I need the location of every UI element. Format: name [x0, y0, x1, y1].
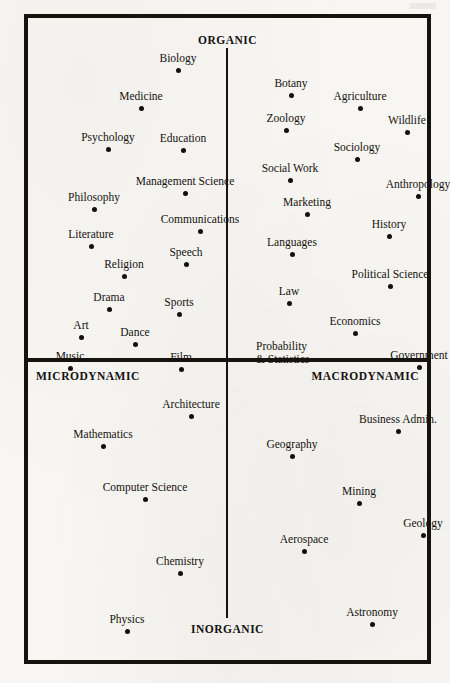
pole-label-right: MACRODYNAMIC: [311, 370, 419, 382]
data-point-label: Mathematics: [73, 428, 132, 440]
data-point-label: Religion: [104, 258, 144, 270]
data-point-label: Languages: [267, 236, 317, 248]
data-point-label: Marketing: [283, 196, 331, 208]
data-point-marker: [289, 93, 294, 98]
data-point-label: Philosophy: [68, 191, 120, 203]
data-point-marker: [353, 331, 358, 336]
data-point-label: Sociology: [334, 141, 381, 153]
data-point-marker: [387, 234, 392, 239]
data-point-label: Political Science: [352, 268, 429, 280]
data-point-marker: [396, 429, 401, 434]
data-point-marker: [305, 212, 310, 217]
data-point-marker: [89, 244, 94, 249]
pole-label-top: ORGANIC: [28, 34, 427, 46]
data-point-marker: [355, 157, 360, 162]
data-point-marker: [92, 207, 97, 212]
data-point-label: Management Science: [136, 175, 235, 187]
data-point-label: Anthropology: [386, 178, 450, 190]
data-point-label: Social Work: [262, 162, 319, 174]
data-point-label: Education: [160, 132, 207, 144]
data-point-marker: [183, 191, 188, 196]
data-point-marker: [388, 284, 393, 289]
data-point-marker: [106, 147, 111, 152]
data-point-label: Chemistry: [156, 555, 204, 567]
data-point-marker: [198, 229, 203, 234]
data-point-label: Botany: [274, 77, 307, 89]
data-point-label: Agriculture: [333, 90, 386, 102]
data-point-label: Art: [73, 319, 88, 331]
pole-label-left: MICRODYNAMIC: [36, 370, 140, 382]
data-point-marker: [176, 68, 181, 73]
data-point-marker: [143, 497, 148, 502]
data-point-label: Dance: [120, 326, 149, 338]
data-point-label: Sports: [164, 296, 193, 308]
data-point-label: Speech: [169, 246, 202, 258]
data-point-marker: [133, 342, 138, 347]
data-point-marker: [357, 501, 362, 506]
data-point-label: Music: [56, 350, 85, 362]
data-point-marker: [189, 414, 194, 419]
data-point-marker: [179, 367, 184, 372]
data-point-marker: [417, 365, 422, 370]
figure-page: ORGANIC INORGANIC MICRODYNAMIC MACRODYNA…: [0, 0, 450, 683]
data-point-label: History: [372, 218, 407, 230]
data-point-label: Business Admin.: [359, 413, 437, 425]
data-point-marker: [288, 178, 293, 183]
data-point-marker: [79, 335, 84, 340]
pole-label-bottom: INORGANIC: [28, 623, 427, 635]
data-point-marker: [178, 571, 183, 576]
data-point-label: Law: [279, 285, 299, 297]
data-point-label: Economics: [329, 315, 380, 327]
data-point-label: Computer Science: [103, 481, 188, 493]
data-point-marker: [302, 549, 307, 554]
data-point-marker: [101, 444, 106, 449]
data-point-label: Wildlife: [388, 114, 426, 126]
data-point-label: Aerospace: [280, 533, 329, 545]
data-point-marker: [68, 366, 73, 371]
data-point-label: Architecture: [162, 398, 219, 410]
data-point-label: Communications: [161, 213, 240, 225]
data-point-marker: [290, 252, 295, 257]
data-point-label: Astronomy: [346, 606, 398, 618]
data-point-label: Government: [390, 349, 447, 361]
vertical-axis-upper: [226, 48, 228, 358]
data-point-marker: [287, 301, 292, 306]
data-point-marker: [290, 454, 295, 459]
data-point-marker: [284, 128, 289, 133]
data-point-marker: [125, 629, 130, 634]
data-point-label: Psychology: [81, 131, 135, 143]
data-point-marker: [107, 307, 112, 312]
data-point-label: Medicine: [119, 90, 162, 102]
data-point-marker: [122, 274, 127, 279]
data-point-label: Physics: [109, 613, 144, 625]
horizontal-axis: [28, 358, 427, 362]
data-point-marker: [405, 130, 410, 135]
data-point-marker: [184, 262, 189, 267]
data-point-label: Drama: [93, 291, 124, 303]
data-point-label: Zoology: [267, 112, 306, 124]
quadrant-plot: ORGANIC INORGANIC MICRODYNAMIC MACRODYNA…: [28, 18, 427, 660]
data-point-label: Geology: [403, 517, 443, 529]
data-point-marker: [416, 194, 421, 199]
data-point-marker: [421, 533, 426, 538]
data-point-label: Mining: [342, 485, 376, 497]
data-point-marker: [139, 106, 144, 111]
data-point-label: Probability & Statistics: [256, 340, 309, 365]
data-point-label: Geography: [266, 438, 317, 450]
data-point-marker: [358, 106, 363, 111]
vertical-axis-lower: [226, 362, 228, 618]
data-point-label: Biology: [159, 52, 196, 64]
data-point-label: Film: [170, 351, 192, 363]
data-point-label: Literature: [68, 228, 113, 240]
data-point-marker: [177, 312, 182, 317]
data-point-marker: [370, 622, 375, 627]
data-point-marker: [181, 148, 186, 153]
scan-artifact: [410, 3, 436, 9]
